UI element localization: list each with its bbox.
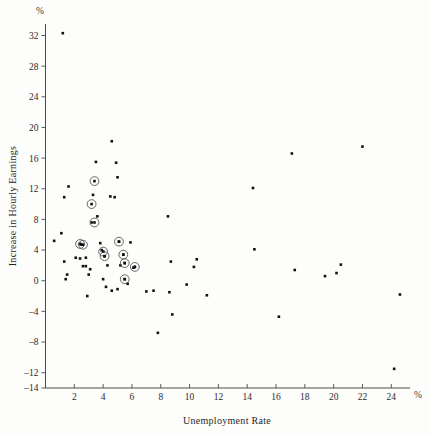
- data-point: [63, 260, 66, 263]
- data-point: [115, 161, 118, 164]
- x-axis-ticks: 24681012141618202224: [72, 384, 396, 402]
- data-point-highlighted: [122, 253, 125, 256]
- data-point: [74, 256, 77, 259]
- data-point: [252, 187, 255, 190]
- data-point: [85, 265, 88, 268]
- x-tick-label: 8: [158, 392, 163, 402]
- data-point: [85, 256, 88, 259]
- data-point: [66, 273, 69, 276]
- y-unit-text: %: [36, 6, 44, 16]
- data-point: [168, 291, 171, 294]
- data-point-highlighted: [118, 240, 121, 243]
- data-point: [95, 161, 98, 164]
- data-point: [167, 215, 170, 218]
- x-tick-label: 20: [329, 392, 339, 402]
- data-point: [113, 196, 116, 199]
- x-tick-label: 6: [130, 392, 135, 402]
- data-point: [129, 241, 132, 244]
- x-unit-text: %: [414, 390, 422, 400]
- data-point: [102, 278, 105, 281]
- data-point: [340, 263, 343, 266]
- data-point: [92, 194, 95, 197]
- data-point: [278, 315, 281, 318]
- data-point-highlighted: [93, 180, 96, 183]
- data-point: [291, 152, 294, 155]
- data-point: [171, 313, 174, 316]
- y-tick-label: 24: [29, 92, 39, 102]
- y-tick-label: 8: [34, 215, 39, 225]
- y-axis-title: Increase in Hourly Earnings: [7, 146, 18, 267]
- data-point: [145, 290, 148, 293]
- data-point: [63, 196, 66, 199]
- x-tick-label: 4: [101, 392, 106, 402]
- data-point: [116, 288, 119, 291]
- data-point: [206, 294, 209, 297]
- data-point-highlighted: [123, 262, 126, 265]
- data-point: [293, 269, 296, 272]
- x-axis-unit-label: %: [414, 390, 422, 400]
- data-point: [61, 32, 64, 35]
- y-tick-label: 32: [29, 31, 39, 41]
- scatter-plot-figure: % % –14–12–8–4048121620242832 2468101214…: [0, 0, 430, 435]
- data-point: [157, 332, 160, 335]
- x-tick-label: 22: [358, 392, 368, 402]
- data-point: [99, 242, 102, 245]
- data-point: [335, 272, 338, 275]
- y-tick-label: 20: [29, 123, 39, 133]
- x-axis-title: Unemployment Rate: [183, 415, 271, 426]
- data-point-highlighted: [123, 278, 126, 281]
- data-point-highlighted: [90, 203, 93, 206]
- data-point: [170, 260, 173, 263]
- data-point-highlighted: [93, 221, 96, 224]
- data-point: [82, 265, 85, 268]
- data-points-layer: [53, 32, 401, 370]
- y-tick-label: 4: [34, 245, 39, 255]
- x-tick-label: 18: [300, 392, 310, 402]
- x-tick-label: 16: [271, 392, 281, 402]
- y-tick-label: 12: [29, 184, 39, 194]
- data-point: [195, 258, 198, 261]
- data-point: [79, 257, 82, 260]
- data-point: [399, 293, 402, 296]
- data-point: [152, 289, 155, 292]
- data-point-highlighted: [82, 243, 85, 246]
- data-point: [60, 232, 63, 235]
- y-axis-unit-label: %: [36, 6, 44, 16]
- data-point-highlighted: [134, 266, 137, 269]
- x-tick-label: 2: [72, 392, 77, 402]
- chart-canvas: % % –14–12–8–4048121620242832 2468101214…: [0, 0, 430, 435]
- y-tick-label: –8: [28, 337, 39, 347]
- data-point: [87, 273, 90, 276]
- x-tick-label: 12: [214, 392, 224, 402]
- data-point: [109, 195, 112, 198]
- data-point: [90, 221, 93, 224]
- x-tick-label: 24: [387, 392, 397, 402]
- y-tick-label: –14: [23, 383, 39, 393]
- data-point-highlighted: [103, 255, 106, 258]
- data-point: [89, 268, 92, 271]
- highlight-rings-layer: [76, 177, 140, 284]
- data-point: [96, 215, 99, 218]
- x-tick-label: 14: [242, 392, 252, 402]
- data-point: [86, 295, 89, 298]
- data-point: [116, 176, 119, 179]
- y-tick-label: –12: [23, 368, 39, 378]
- data-point: [105, 286, 108, 289]
- y-tick-label: 16: [29, 154, 39, 164]
- data-point: [53, 240, 56, 243]
- y-tick-label: 0: [34, 276, 39, 286]
- data-point: [106, 264, 109, 267]
- data-point: [110, 289, 113, 292]
- data-point: [193, 266, 196, 269]
- y-axis-ticks: –14–12–8–4048121620242832: [23, 31, 45, 394]
- y-tick-label: 28: [29, 62, 39, 72]
- data-point: [361, 145, 364, 148]
- data-point: [253, 248, 256, 251]
- y-tick-label: –4: [28, 307, 39, 317]
- data-point: [393, 368, 396, 371]
- data-point: [67, 185, 70, 188]
- data-point: [110, 140, 113, 143]
- data-point: [324, 275, 327, 278]
- data-point: [64, 278, 67, 281]
- data-point: [185, 283, 188, 286]
